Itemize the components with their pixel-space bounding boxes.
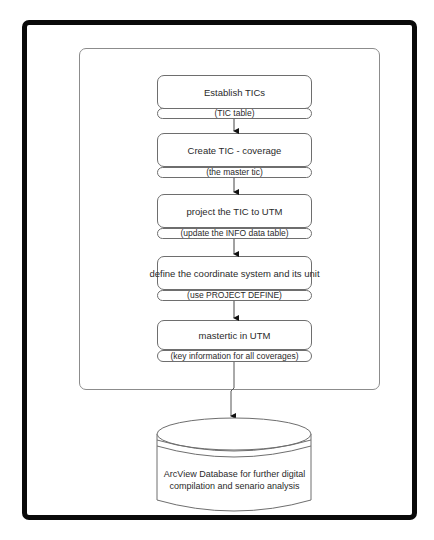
step-define-coordinate-system: define the coordinate system and its uni…: [157, 256, 312, 290]
step-output-label: (key information for all coverages): [157, 350, 312, 362]
step-output-text: (the master tic): [206, 168, 263, 177]
step-title: mastertic in UTM: [199, 330, 271, 341]
database-label-line-2: compilation and senario analysis: [157, 480, 312, 492]
step-output-label: (the master tic): [157, 167, 312, 178]
step-output-label: (update the INFO data table): [157, 228, 312, 239]
step-output-text: (TIC table): [214, 109, 254, 118]
step-create-tic-coverage: Create TIC - coverage: [157, 133, 312, 167]
step-output-label: (use PROJECT DEFINE): [157, 290, 312, 301]
database-label: ArcView Database for further digital com…: [157, 468, 312, 492]
database-label-line-1: ArcView Database for further digital: [157, 468, 312, 480]
step-establish-tics: Establish TICs: [157, 75, 312, 109]
step-mastertic-in-utm: mastertic in UTM: [157, 320, 312, 350]
step-output-text: (key information for all coverages): [170, 352, 298, 361]
step-output-text: (update the INFO data table): [180, 229, 288, 238]
step-title: project the TIC to UTM: [187, 206, 283, 217]
step-title: define the coordinate system and its uni…: [149, 268, 319, 279]
step-project-tic-to-utm: project the TIC to UTM: [157, 194, 312, 228]
step-output-text: (use PROJECT DEFINE): [187, 291, 282, 300]
step-title: Establish TICs: [204, 87, 265, 98]
step-output-label: (TIC table): [157, 108, 312, 119]
step-title: Create TIC - coverage: [188, 145, 282, 156]
